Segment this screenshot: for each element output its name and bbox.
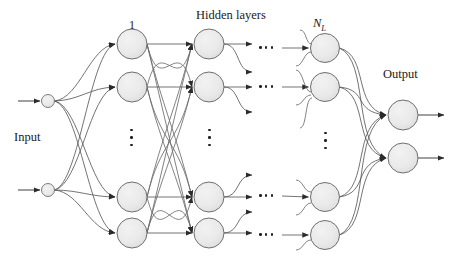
vertical-ellipsis-layer2 [208, 129, 211, 146]
vertical-ellipsis-layer1 [130, 129, 133, 146]
node-hidden-NL-1 [311, 34, 340, 63]
node-hidden-2-3 [194, 182, 224, 212]
horizontal-ellipsis-bottom-1 [259, 194, 273, 197]
network-graph-svg [0, 0, 456, 262]
edge-group-layerNL-output [340, 48, 387, 235]
node-hidden-2-4 [194, 218, 224, 248]
edge-group-layer2-ellipsis [224, 44, 252, 233]
node-hidden-2-2 [194, 72, 224, 102]
node-hidden-NL-4 [311, 221, 340, 250]
node-output-2 [388, 143, 418, 173]
edge-group-layer1-layer2 [147, 44, 192, 233]
node-hidden-1-2 [117, 72, 147, 102]
layer-NL-label: NL [313, 17, 326, 32]
node-hidden-1-4 [117, 218, 147, 248]
horizontal-ellipsis-top-1 [259, 46, 273, 49]
vertical-ellipsis-layerNL [324, 132, 327, 149]
node-input-1 [42, 95, 55, 108]
node-output-1 [388, 100, 418, 130]
edge-group-input [55, 44, 116, 233]
node-hidden-1-3 [117, 182, 147, 212]
neural-network-diagram: Hidden layers 1 NL Input Output [0, 0, 456, 262]
node-hidden-2-1 [194, 29, 224, 59]
node-hidden-NL-3 [311, 183, 340, 212]
node-hidden-1-1 [117, 29, 147, 59]
node-group [42, 29, 419, 250]
node-hidden-NL-2 [311, 73, 340, 102]
layer-1-label: 1 [129, 19, 135, 31]
output-label: Output [383, 68, 418, 81]
layer-NL-subscript: L [321, 23, 326, 33]
horizontal-ellipsis-top-2 [259, 85, 273, 88]
node-input-2 [42, 184, 55, 197]
input-label: Input [14, 131, 40, 144]
diagram-title: Hidden layers [196, 9, 266, 22]
horizontal-ellipsis-bottom-2 [259, 233, 273, 236]
edge-group-ellipsis-layerNL [282, 30, 312, 250]
